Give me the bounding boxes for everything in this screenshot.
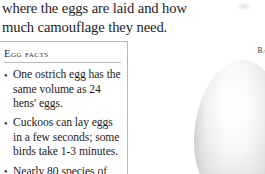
list-item: • Cuckoos can lay eggs in a few seconds;… [4, 116, 123, 160]
list-item: • One ostrich egg has the same volume as… [4, 68, 123, 112]
bullet-icon: • [4, 164, 7, 174]
scan-artifact [237, 2, 251, 11]
caption-line-1: BARN OWL [246, 46, 265, 55]
egg-illustration [188, 58, 265, 174]
egg-shape [188, 58, 265, 174]
caption-line-2: EGG [246, 55, 265, 64]
bullet-icon: • [4, 68, 7, 83]
list-item: • Nearly 80 species of bird lay eggs in … [4, 165, 123, 174]
egg-facts-heading: EGG FACTS [4, 48, 127, 59]
egg-facts-box: EGG FACTS • One ostrich egg has the same… [0, 41, 128, 174]
list-item-text: Nearly 80 species of bird lay eggs in th… [13, 165, 107, 174]
figure-caption: BARN OWL EGG [246, 46, 265, 64]
bullet-icon: • [4, 116, 7, 131]
body-copy: where the eggs are laid and how much cam… [2, 0, 202, 36]
list-item-text: Cuckoos can lay eggs in a few seconds; s… [13, 116, 119, 158]
barn-owl-egg-figure: BARN OWL EGG [180, 44, 265, 174]
body-paragraph: where the eggs are laid and how much cam… [2, 0, 202, 36]
list-item-text: One ostrich egg has the same volume as 2… [13, 68, 121, 110]
egg-facts-list: • One ostrich egg has the same volume as… [0, 63, 127, 174]
